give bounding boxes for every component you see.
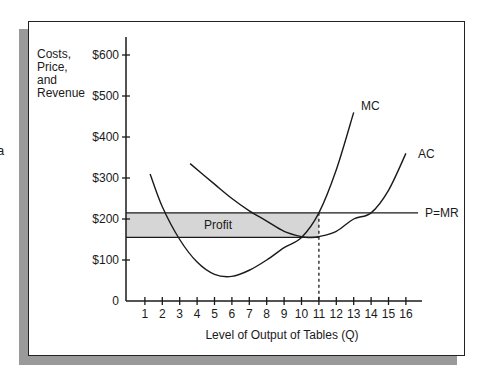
marginal-cost-curve — [150, 112, 354, 276]
y-axis-label-line: Revenue — [37, 86, 85, 100]
x-tick-label: 15 — [382, 307, 396, 321]
x-tick-label: 4 — [194, 307, 201, 321]
pmr-label: P=MR — [425, 206, 459, 220]
mc-label: MC — [361, 99, 380, 113]
x-tick-label: 9 — [281, 307, 288, 321]
x-tick-label: 12 — [330, 307, 344, 321]
axes: 0$100$200$300$400$500$600123456789101112… — [92, 37, 422, 321]
y-tick-label: $500 — [92, 89, 119, 103]
y-tick-label: $600 — [92, 48, 119, 62]
y-axis-label-line: Price, — [37, 60, 68, 74]
x-tick-label: 16 — [399, 307, 413, 321]
y-axis-label-line: Costs, — [37, 47, 71, 61]
x-tick-label: 13 — [347, 307, 361, 321]
y-tick-label: 0 — [112, 294, 119, 308]
x-axis-label: Level of Output of Tables (Q) — [205, 328, 358, 342]
x-tick-label: 14 — [364, 307, 378, 321]
y-tick-label: $300 — [92, 171, 119, 185]
x-tick-label: 10 — [295, 307, 309, 321]
y-axis-label: Costs,Price,andRevenue — [37, 47, 85, 100]
chart-plot: Costs,Price,andRevenue Profit 0$100$200$… — [0, 0, 487, 373]
x-tick-label: 1 — [142, 307, 149, 321]
x-tick-label: 11 — [313, 307, 326, 321]
y-axis-label-line: and — [37, 73, 57, 87]
profit-label: Profit — [204, 218, 233, 232]
ac-label: AC — [418, 147, 435, 161]
x-tick-label: 6 — [229, 307, 236, 321]
x-tick-label: 8 — [263, 307, 270, 321]
x-tick-label: 5 — [211, 307, 218, 321]
y-tick-label: $400 — [92, 130, 119, 144]
y-tick-label: $200 — [92, 212, 119, 226]
x-tick-label: 2 — [159, 307, 166, 321]
x-tick-label: 3 — [176, 307, 183, 321]
x-tick-label: 7 — [246, 307, 253, 321]
y-tick-label: $100 — [92, 253, 119, 267]
